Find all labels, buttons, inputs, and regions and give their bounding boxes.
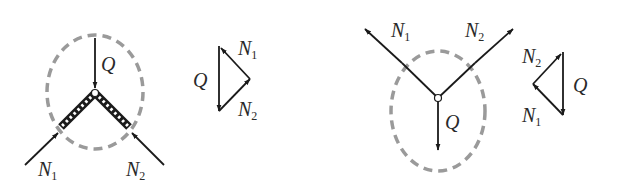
- diagram-canvas: [0, 0, 618, 188]
- label-n1-main: N: [522, 104, 535, 126]
- label-n1: N1: [522, 105, 541, 128]
- label-n1-sub: 1: [251, 48, 257, 62]
- label-n2: N2: [126, 159, 145, 182]
- left-structure: [25, 35, 164, 165]
- label-n1-sub: 1: [51, 169, 57, 183]
- member-left: [402, 63, 438, 98]
- label-n1-main: N: [238, 37, 251, 59]
- right-structure: [365, 29, 513, 171]
- joint-node: [92, 90, 99, 97]
- label-n2-main: N: [238, 98, 251, 120]
- label-n2-sub: 2: [478, 30, 484, 44]
- label-n1-sub: 1: [404, 30, 410, 44]
- label-q: Q: [193, 70, 207, 90]
- member-right: [438, 63, 475, 98]
- label-n2-main: N: [522, 45, 535, 67]
- label-q: Q: [573, 75, 587, 95]
- label-n1-main: N: [38, 158, 51, 180]
- label-q: Q: [101, 54, 115, 74]
- label-n1: N1: [238, 38, 257, 61]
- label-n2-sub: 2: [139, 169, 145, 183]
- label-n1-main: N: [391, 19, 404, 41]
- beam-left: [61, 93, 95, 127]
- label-n1-sub: 1: [535, 115, 541, 129]
- label-n2-sub: 2: [535, 56, 541, 70]
- label-q: Q: [445, 112, 459, 132]
- label-n1: N1: [38, 159, 57, 182]
- label-n2: N2: [465, 20, 484, 43]
- label-n2-sub: 2: [251, 109, 257, 123]
- label-n2: N2: [238, 99, 257, 122]
- label-n1: N1: [391, 20, 410, 43]
- label-n2-main: N: [126, 158, 139, 180]
- label-n2: N2: [522, 46, 541, 69]
- beam-right: [95, 93, 129, 127]
- joint-node: [435, 95, 442, 102]
- label-n2-main: N: [465, 19, 478, 41]
